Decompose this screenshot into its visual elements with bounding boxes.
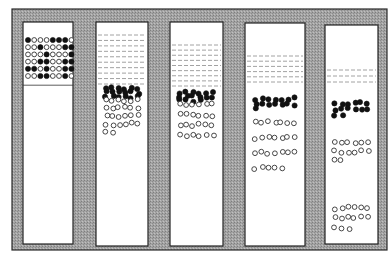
light-particle [136,113,141,118]
dense-particle [209,95,214,100]
light-particle [135,97,140,102]
dense-particle [69,59,74,64]
light-particle [332,157,337,162]
dense-particle [117,89,122,94]
light-particle [57,52,62,57]
light-particle [128,105,133,110]
light-particle [136,106,141,111]
light-particle [253,119,258,124]
light-particle [260,135,265,140]
dense-particle [292,103,297,108]
dense-particle [63,59,68,64]
light-particle [252,167,257,172]
light-particle [347,227,352,232]
light-particle [57,59,62,64]
dense-particle [341,113,346,118]
light-particle [50,59,55,64]
dense-particle [272,101,277,106]
dense-particle [357,100,362,105]
light-particle [118,123,123,128]
light-particle [122,99,127,104]
light-particle [184,103,189,108]
light-particle [292,121,297,126]
dense-particle [69,45,74,50]
light-particle [259,149,264,154]
light-particle [351,216,356,221]
dense-particle [69,66,74,71]
dense-particle [284,101,289,106]
dense-particle [345,105,350,110]
light-particle [111,130,116,135]
light-particle [345,140,350,145]
dense-particle [25,66,30,71]
light-particle [332,140,337,145]
light-particle [280,166,285,171]
tube-2 [96,22,148,246]
light-particle [124,122,129,127]
light-particle [184,111,189,116]
dense-particle [267,102,272,107]
dense-particle [25,37,30,42]
light-particle [261,165,266,170]
dense-particle [63,37,68,42]
dense-particle [44,73,49,78]
light-particle [50,74,55,79]
light-particle [185,134,190,139]
light-particle [128,99,133,104]
dense-particle [260,101,265,106]
light-particle [366,214,371,219]
light-particle [352,150,357,155]
light-particle [340,206,345,211]
light-particle [339,226,344,231]
light-particle [26,45,31,50]
dense-particle [32,66,37,71]
dense-particle [111,93,116,98]
light-particle [339,150,344,155]
light-particle [267,135,272,140]
light-particle [104,97,109,102]
light-particle [44,38,49,43]
dense-particle [183,97,188,102]
dense-particle [210,90,215,95]
dense-particle [339,106,344,111]
light-particle [116,115,121,120]
light-particle [191,112,196,117]
light-particle [57,74,62,79]
dense-particle [63,45,68,50]
light-particle [57,66,62,71]
light-particle [123,104,128,109]
dense-particle [44,59,49,64]
dense-particle [63,66,68,71]
light-particle [196,113,201,118]
light-particle [212,133,217,138]
dense-particle [128,89,133,94]
dense-particle [364,101,369,106]
light-particle [366,140,371,145]
diagram-canvas [0,0,392,261]
light-particle [253,151,258,156]
light-particle [50,45,55,50]
light-particle [367,149,372,154]
light-particle [190,102,195,107]
light-particle [115,105,120,110]
light-particle [359,214,364,219]
dense-particle [135,86,140,91]
light-particle [179,123,184,128]
light-particle [332,207,337,212]
tube-3 [170,22,223,246]
light-particle [32,59,37,64]
light-particle [272,135,277,140]
dense-particle [365,107,370,112]
light-particle [103,122,108,127]
dense-particle [353,107,358,112]
light-particle [278,120,283,125]
tube-4 [245,23,305,246]
light-particle [338,158,343,163]
light-particle [44,45,49,50]
light-particle [128,113,133,118]
light-particle [359,205,364,210]
light-particle [32,52,37,57]
light-particle [210,114,215,119]
light-particle [285,135,290,140]
light-particle [285,121,290,126]
